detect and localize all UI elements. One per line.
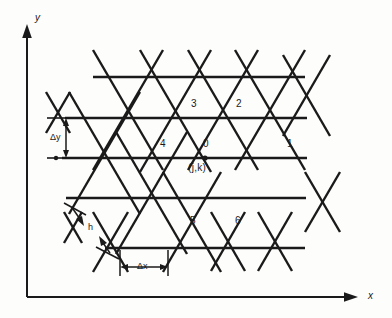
- x-axis-arrowhead: [344, 292, 358, 302]
- center-coordinate-label: (j,k): [188, 163, 206, 173]
- lattice-diagram-svg: [0, 0, 392, 318]
- h-label: h: [88, 223, 93, 232]
- node-label-0: 0: [203, 139, 209, 149]
- delta-y-label: Δy: [50, 133, 61, 142]
- node-label-5: 5: [190, 216, 196, 226]
- node-label-3: 3: [191, 99, 197, 109]
- node-label-4: 4: [160, 139, 166, 149]
- y-axis-arrowhead: [22, 24, 32, 38]
- node-label-1: 1: [287, 139, 293, 149]
- lattice-diagonals-up: [46, 50, 340, 272]
- node-label-6: 6: [235, 216, 241, 226]
- lattice-figure: y x Δy Δx h 0 1 2 3 4 5 6 (j,k): [0, 0, 392, 318]
- delta-x-label: Δx: [137, 262, 148, 271]
- center-node-marker: [202, 155, 207, 160]
- y-axis-label: y: [35, 13, 40, 23]
- x-axis-label: x: [368, 291, 373, 301]
- node-label-2: 2: [236, 99, 242, 109]
